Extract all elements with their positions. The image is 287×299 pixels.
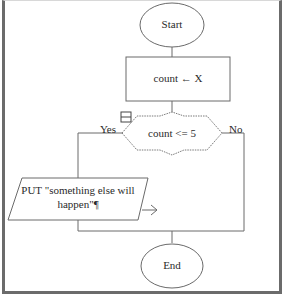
yes-label: Yes [100,123,116,135]
assign-label: count ← X [126,72,230,84]
decision-label: count <= 5 [132,127,212,139]
no-label: No [229,123,242,135]
output-line-2: happen"¶ [10,198,146,210]
start-label: Start [140,18,204,30]
output-line-1: PUT "something else will [10,184,146,196]
flowchart-canvas [0,0,287,299]
end-label: End [141,259,203,271]
